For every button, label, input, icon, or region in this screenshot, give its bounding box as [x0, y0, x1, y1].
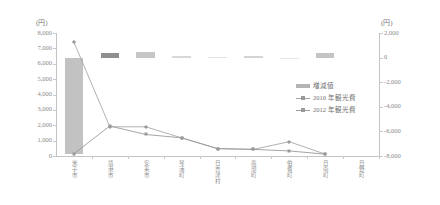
right-tick-label: 0 — [384, 54, 418, 61]
right-tick-label: -6,000 — [384, 128, 418, 135]
bar-segment — [136, 52, 155, 57]
right-tick-mark — [380, 82, 383, 83]
x-tick-mark — [271, 156, 272, 159]
x-tick-mark — [128, 156, 129, 159]
line-data-point — [144, 125, 148, 129]
right-tick-mark — [380, 107, 383, 108]
left-tick-label: 3,000 — [18, 106, 52, 113]
left-tick-mark — [53, 141, 56, 142]
line-data-point — [72, 152, 75, 155]
legend-item[interactable]: 2012 年観光費 — [296, 104, 356, 116]
x-tick-mark — [307, 156, 308, 159]
x-tick-mark — [164, 156, 165, 159]
left-tick-mark — [53, 79, 56, 80]
x-axis-label: 伯耆町 — [286, 160, 292, 178]
left-tick-label: 5,000 — [18, 76, 52, 83]
left-tick-mark — [53, 110, 56, 111]
x-axis-label: 境港市 — [107, 160, 113, 178]
x-axis-label: 米子市 — [71, 160, 77, 178]
x-tick-mark — [235, 156, 236, 159]
x-axis-label: 日南町 — [322, 160, 328, 178]
x-tick-mark — [200, 156, 201, 159]
x-axis-label: 安来市 — [143, 160, 149, 178]
legend-line-swatch-icon — [296, 98, 310, 99]
bar-segment — [280, 58, 299, 60]
x-axis-label: 日吉津村 — [215, 160, 221, 184]
bar-segment — [65, 58, 84, 155]
left-tick-mark — [53, 156, 56, 157]
legend-line-swatch-icon — [296, 110, 310, 111]
line-data-point — [72, 40, 76, 44]
legend-item[interactable]: 2010 年観光費 — [296, 92, 356, 104]
bar-segment — [208, 57, 227, 59]
x-tick-mark — [92, 156, 93, 159]
bar-segment — [316, 53, 335, 57]
left-axis-line — [56, 33, 57, 157]
right-tick-label: 2,000 — [384, 30, 418, 37]
x-tick-mark — [343, 156, 344, 159]
x-axis-line — [56, 156, 380, 157]
x-axis-label: 琴浦町 — [179, 160, 185, 178]
line-data-point — [324, 153, 327, 156]
legend-bar-swatch-icon — [296, 84, 310, 88]
right-tick-label: -8,000 — [384, 153, 418, 160]
line-data-point — [216, 147, 219, 150]
bar-segment — [172, 56, 191, 58]
left-tick-label: 1,000 — [18, 137, 52, 144]
line-data-point — [180, 136, 183, 139]
line-data-point — [288, 149, 291, 152]
left-tick-mark — [53, 33, 56, 34]
x-axis-label: 日野町 — [358, 160, 364, 178]
x-tick-mark — [379, 156, 380, 159]
line-data-point — [144, 133, 147, 136]
right-tick-label: -2,000 — [384, 79, 418, 86]
right-tick-label: -4,000 — [384, 103, 418, 110]
left-tick-label: 0 — [18, 153, 52, 160]
left-tick-mark — [53, 48, 56, 49]
left-tick-label: 8,000 — [18, 30, 52, 37]
bar-segment — [101, 53, 120, 58]
right-axis-line — [379, 33, 380, 157]
right-tick-mark — [380, 131, 383, 132]
left-tick-mark — [53, 95, 56, 96]
right-tick-mark — [380, 58, 383, 59]
left-axis-unit: (円) — [36, 17, 48, 27]
left-tick-label: 6,000 — [18, 60, 52, 67]
legend-item-label: 増減値 — [313, 80, 334, 92]
legend-item-label: 2010 年観光費 — [313, 92, 356, 104]
left-tick-mark — [53, 125, 56, 126]
line-data-point — [108, 125, 111, 128]
right-tick-mark — [380, 156, 383, 157]
chart-legend: 増減値2010 年観光費2012 年観光費 — [296, 80, 356, 116]
legend-item[interactable]: 増減値 — [296, 80, 356, 92]
left-tick-label: 4,000 — [18, 91, 52, 98]
x-axis-label: 南部町 — [250, 160, 256, 178]
left-tick-mark — [53, 64, 56, 65]
right-axis-unit: (円) — [381, 17, 393, 27]
left-tick-label: 2,000 — [18, 122, 52, 129]
bar-segment — [244, 56, 263, 58]
left-tick-label: 7,000 — [18, 45, 52, 52]
chart-canvas: (円) (円) 8,0007,0006,0005,0004,0003,0002,… — [0, 0, 440, 205]
line-data-point — [287, 140, 291, 144]
line-data-point — [252, 148, 255, 151]
right-tick-mark — [380, 33, 383, 34]
legend-item-label: 2012 年観光費 — [313, 104, 356, 116]
